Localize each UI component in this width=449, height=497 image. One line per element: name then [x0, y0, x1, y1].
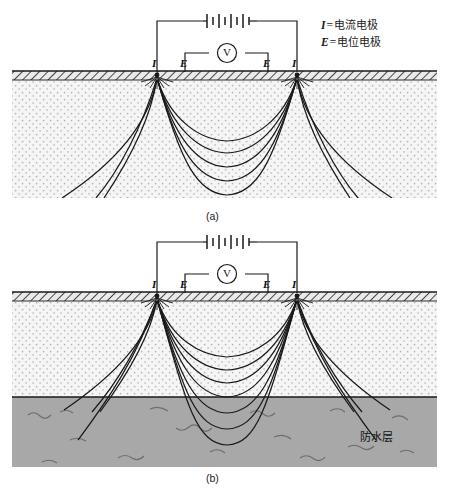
- upper-battery-symbol: [203, 14, 257, 28]
- lower-label-i-left: I: [152, 278, 156, 290]
- lower-ground-surface: [12, 292, 437, 301]
- legend-row-current-electrode: I=电流电极: [321, 17, 381, 34]
- upper-label-e-right: E: [263, 57, 270, 69]
- legend: I=电流电极 E=电位电极: [321, 17, 381, 51]
- upper-voltmeter-label: V: [223, 46, 231, 58]
- lower-electrode-node-i-right: [295, 294, 300, 299]
- legend-equals-0: =: [325, 19, 334, 31]
- legend-text-current-electrode: 电流电极: [334, 19, 378, 32]
- lower-battery-symbol: [203, 235, 257, 249]
- lower-label-e-left: E: [180, 278, 187, 290]
- upper-electrode-node-i-left: [155, 73, 160, 78]
- lower-voltmeter-label: V: [223, 267, 231, 279]
- lower-label-i-right: I: [292, 278, 296, 290]
- lower-label-e-right: E: [263, 278, 270, 290]
- upper-label-i-right: I: [292, 57, 296, 69]
- waterproof-layer-label: 防水层: [360, 428, 393, 444]
- upper-electrode-node-i-right: [295, 73, 300, 78]
- resistivity-survey-figure: [0, 0, 449, 497]
- caption-a: (a): [206, 210, 219, 222]
- upper-ground-surface: [12, 71, 437, 80]
- upper-label-i-left: I: [152, 57, 156, 69]
- upper-label-e-left: E: [180, 57, 187, 69]
- figure-canvas: [0, 0, 449, 497]
- caption-b: (b): [206, 472, 219, 484]
- legend-text-potential-electrode: 电位电极: [337, 36, 381, 49]
- lower-electrode-node-i-left: [155, 294, 160, 299]
- legend-row-potential-electrode: E=电位电极: [321, 34, 381, 51]
- legend-equals-1: =: [329, 36, 338, 48]
- legend-symbol-e: E: [321, 36, 329, 48]
